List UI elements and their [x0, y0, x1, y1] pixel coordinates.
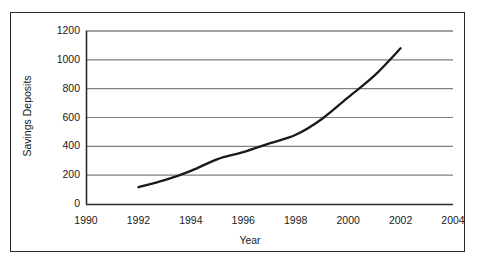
y-tick-label: 0	[40, 198, 80, 209]
y-tick-label: 400	[40, 140, 80, 151]
x-tick-label: 2002	[381, 215, 421, 226]
line-chart-plot	[0, 0, 480, 268]
y-tick-label: 1200	[40, 25, 80, 36]
y-tick-label: 200	[40, 169, 80, 180]
x-tick-label: 1990	[66, 215, 106, 226]
y-tick-label: 800	[40, 83, 80, 94]
y-tick-label: 600	[40, 112, 80, 123]
x-tick-label: 1996	[223, 215, 263, 226]
x-tick-label: 2004	[433, 215, 473, 226]
x-tick-label: 1992	[118, 215, 158, 226]
x-tick-label: 2000	[328, 215, 368, 226]
y-tick-label: 1000	[40, 54, 80, 65]
chart-figure: 120010008006004002000 199019921994199619…	[0, 0, 480, 268]
x-axis-title: Year	[190, 234, 310, 246]
x-tick-label: 1994	[171, 215, 211, 226]
x-tick-label: 1998	[276, 215, 316, 226]
y-axis-title: Savings Deposits	[21, 56, 33, 176]
